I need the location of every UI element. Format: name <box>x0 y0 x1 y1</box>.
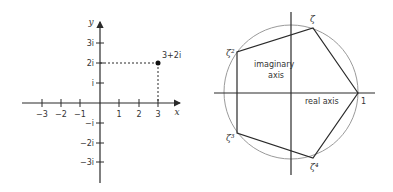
real-axis-label: real axis <box>305 97 339 106</box>
vertex-label-zeta: ζ <box>310 14 316 24</box>
imaginary-axis-label-2: axis <box>268 71 284 80</box>
y-tick-label: −i <box>85 119 94 128</box>
point-marker <box>156 61 161 66</box>
vertex-label-zeta3: ζ³ <box>226 133 235 143</box>
x-tick-label: −3 <box>36 110 48 119</box>
point-label: 3+2i <box>162 51 181 60</box>
x-axis-label: x <box>174 107 179 117</box>
y-tick-label: i <box>92 79 94 88</box>
vertex-label-zeta4: ζ⁴ <box>310 162 319 172</box>
x-tick-label: 1 <box>116 110 121 119</box>
imaginary-axis-label: imaginary <box>254 60 294 69</box>
right-roots-of-unity: imaginary axis real axis 1 ζ ζ² ζ³ ζ⁴ <box>214 12 375 175</box>
y-tick-label: −2i <box>80 139 94 148</box>
x-tick-label: 3 <box>155 110 160 119</box>
y-axis-label: y <box>87 17 94 27</box>
vertex-label-1: 1 <box>361 97 366 106</box>
x-tick-label: −2 <box>55 110 67 119</box>
y-tick-label: 3i <box>87 39 94 48</box>
x-tick-label: 2 <box>136 110 141 119</box>
y-tick-label: −3i <box>80 158 94 167</box>
complex-plane-figure: −3 −2 −1 1 2 3 x 3i 2i i −i −2i −3i y 3+… <box>0 0 393 192</box>
vertex-label-zeta2: ζ² <box>226 48 235 58</box>
x-tick-label: −1 <box>74 110 86 119</box>
left-complex-plane: −3 −2 −1 1 2 3 x 3i 2i i −i −2i −3i y 3+… <box>22 17 181 183</box>
y-tick-label: 2i <box>87 59 94 68</box>
